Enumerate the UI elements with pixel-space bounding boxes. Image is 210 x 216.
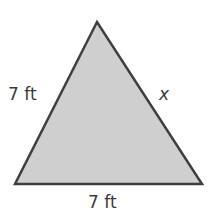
left-side-label: 7 ft [8, 84, 37, 104]
triangle [15, 22, 202, 184]
base-label: 7 ft [88, 192, 117, 212]
triangle-diagram: 7 ft x 7 ft [0, 0, 210, 216]
right-side-label: x [158, 84, 170, 104]
